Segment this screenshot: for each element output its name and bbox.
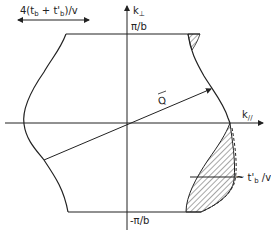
k-par-label: k// — [242, 109, 253, 122]
q-vector-label: Q — [157, 94, 168, 107]
warping-label: ~ t'b /v — [236, 172, 271, 185]
k-perp-label: k⊥ — [133, 5, 145, 18]
upper-hatched-region — [188, 34, 200, 50]
q-overbar — [158, 91, 166, 94]
width-label: 4(tb + t'b)/v — [20, 5, 78, 18]
lower-hatched-region — [186, 123, 235, 212]
fermi-surface-diagram: 4(tb + t'b)/v k⊥ π/b -π/b k// Q ~ t'b /v — [0, 0, 271, 232]
top-boundary-label: π/b — [131, 21, 147, 32]
right-fermi-sheet-upper — [188, 34, 230, 123]
bottom-boundary-label: -π/b — [130, 215, 149, 226]
